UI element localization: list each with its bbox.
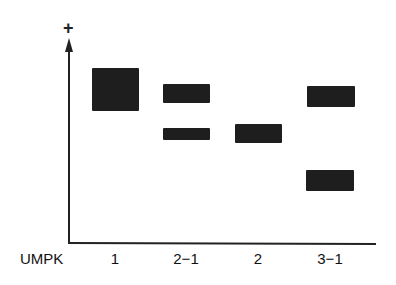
- lane-label-3-1: 3−1: [317, 250, 342, 267]
- band-lane-1-1: [92, 68, 139, 111]
- horizontal-axis: [68, 243, 376, 244]
- row-label-umpk: UMPK: [20, 250, 63, 267]
- band-lane-4-2: [306, 170, 354, 191]
- arrow-up-icon: [65, 38, 73, 52]
- band-lane-4-1: [307, 86, 355, 107]
- lane-label-2-1: 2−1: [173, 250, 198, 267]
- band-lane-2-2: [163, 128, 210, 140]
- lane-label-2: 2: [254, 250, 262, 267]
- band-lane-3-1: [235, 124, 282, 143]
- band-lane-2-1: [163, 84, 210, 103]
- lane-label-1: 1: [111, 250, 119, 267]
- axes: [0, 0, 396, 285]
